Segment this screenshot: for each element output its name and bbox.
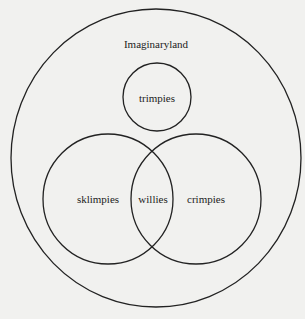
euler-diagram: Imaginaryland trimpies sklimpies willies…: [0, 0, 305, 319]
imaginaryland-label: Imaginaryland: [124, 38, 188, 50]
sklimpies-label: sklimpies: [77, 193, 119, 205]
crimpies-label: crimpies: [187, 193, 225, 205]
imaginaryland-circle: [11, 9, 301, 307]
trimpies-label: trimpies: [139, 92, 175, 104]
willies-label: willies: [138, 193, 167, 205]
